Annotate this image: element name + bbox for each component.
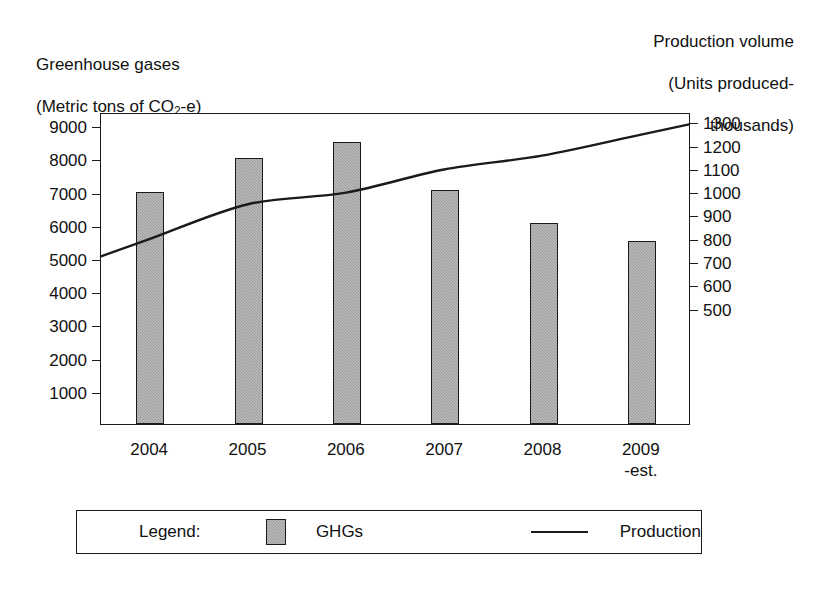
right-tick-mark	[689, 123, 698, 124]
left-tick-mark	[92, 194, 101, 195]
right-tick-mark	[689, 170, 698, 171]
right-tick-mark	[689, 286, 698, 287]
right-tick-label: 700	[703, 255, 731, 272]
legend: Legend: GHGs Production	[76, 510, 702, 554]
left-tick-label: 5000	[49, 252, 87, 269]
right-tick-mark	[689, 216, 698, 217]
x-axis-label: 2008	[488, 439, 598, 460]
right-axis-title-line2: (Units produced-	[653, 73, 794, 94]
right-tick-label: 1300	[703, 115, 741, 132]
left-tick-mark	[92, 227, 101, 228]
left-tick-mark	[92, 127, 101, 128]
left-tick-mark	[92, 360, 101, 361]
legend-label-ghgs: GHGs	[316, 522, 363, 542]
right-tick-label: 1000	[703, 185, 741, 202]
right-tick-label: 1100	[703, 161, 740, 178]
left-tick-label: 8000	[49, 152, 87, 169]
line-series-production	[101, 114, 689, 424]
left-tick-label: 4000	[49, 285, 87, 302]
left-tick-label: 2000	[49, 351, 87, 368]
left-tick-mark	[92, 160, 101, 161]
left-tick-mark	[92, 260, 101, 261]
x-axis-label: 2009 -est.	[586, 439, 696, 481]
right-tick-mark	[689, 240, 698, 241]
legend-line-production	[531, 531, 588, 533]
left-tick-mark	[92, 326, 101, 327]
right-tick-mark	[689, 310, 698, 311]
legend-label-production: Production	[620, 522, 701, 542]
right-tick-mark	[689, 147, 698, 148]
chart-figure: Greenhouse gases (Metric tons of CO2-e) …	[0, 0, 816, 591]
right-tick-mark	[689, 193, 698, 194]
production-line-path	[101, 124, 689, 256]
x-axis-label: 2007	[389, 439, 499, 460]
right-axis-title-line1: Production volume	[653, 31, 794, 52]
left-tick-label: 7000	[49, 185, 87, 202]
right-tick-label: 500	[703, 301, 731, 318]
left-axis-title-line1: Greenhouse gases	[36, 54, 201, 75]
left-tick-label: 3000	[49, 318, 87, 335]
left-tick-mark	[92, 293, 101, 294]
right-tick-mark	[689, 263, 698, 264]
x-axis-label: 2006	[291, 439, 401, 460]
right-tick-label: 1200	[703, 138, 741, 155]
left-tick-label: 9000	[49, 119, 87, 136]
right-tick-label: 900	[703, 208, 731, 225]
left-tick-label: 6000	[49, 218, 87, 235]
plot-area: 100020003000400050006000700080009000 500…	[100, 113, 690, 425]
legend-title: Legend:	[139, 522, 200, 542]
legend-swatch-ghgs	[266, 519, 285, 545]
right-tick-label: 800	[703, 231, 731, 248]
legend-content: Legend: GHGs Production	[77, 511, 701, 553]
x-axis-label: 2004	[94, 439, 204, 460]
left-tick-label: 1000	[49, 384, 87, 401]
left-tick-mark	[92, 393, 101, 394]
x-axis-label: 2005	[193, 439, 303, 460]
right-tick-label: 600	[703, 278, 731, 295]
